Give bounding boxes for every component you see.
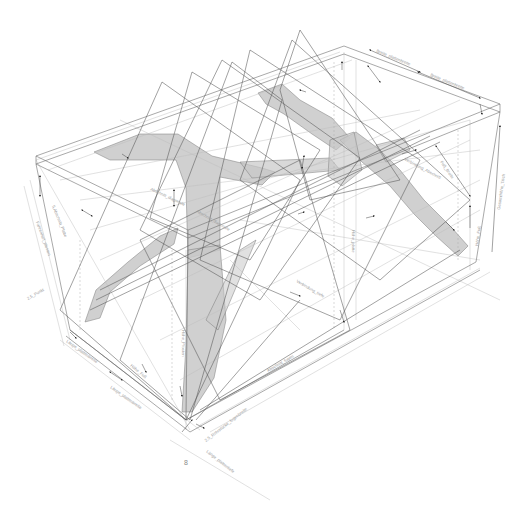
isometric-drawing-canvas: 2,5_Punkt Fahrenheit_pfosten 5,Abschnitt… (0, 0, 527, 512)
connector-horizontal (240, 158, 340, 178)
section-planes (60, 30, 470, 420)
dim-label: Länge_plattenbreite (109, 385, 143, 411)
leg-front-trunk (182, 245, 226, 412)
branch-top-left (94, 134, 275, 258)
dimension-lines (40, 50, 500, 432)
sheet-number: 8 (184, 459, 188, 466)
dimension-labels: 2,5_Punkt Fahrenheit_pfosten 5,Abschnitt… (26, 48, 506, 474)
dim-label: Abschnitt_diagonale (150, 186, 187, 207)
dim-label: Verbindung_Abschnitt (404, 156, 443, 180)
dim-label: Höhe_Fuß (474, 225, 482, 246)
dim-label: Höhe_Fuß (129, 363, 148, 380)
dim-label: Höhe_platte (351, 230, 356, 253)
dim-label: Gesamthöhe_Tisch (496, 173, 506, 210)
dim-label: 2,5_Punkt (26, 287, 46, 301)
dashed-center-lines (80, 62, 458, 400)
dim-label: Breite_plattenbreite (376, 48, 412, 66)
dim-label: Länge_plattenbreite (65, 339, 99, 365)
construction-lines (24, 52, 500, 500)
dim-label: Fahrenheit_pfosten (35, 221, 52, 257)
dim-label: Höhe_Pfosten (181, 330, 186, 357)
dim-label: 5,Abschnitt_Platte (51, 205, 69, 239)
